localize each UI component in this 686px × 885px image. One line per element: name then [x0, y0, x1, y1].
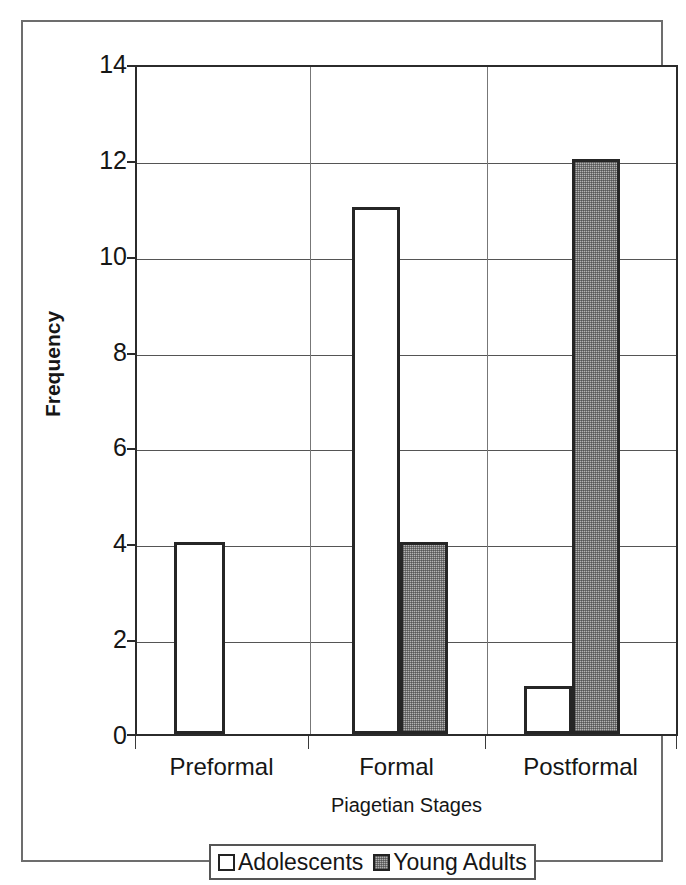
y-tick-label-6: 6: [55, 435, 127, 460]
legend-swatch-gray-icon: [373, 854, 390, 871]
bar-preformal-adolescents: [174, 542, 225, 734]
legend-label-young-adults: Young Adults: [393, 849, 526, 875]
x-tick-mark-0: [135, 736, 136, 749]
y-tick-label-2: 2: [55, 627, 127, 652]
x-axis-ticks: [135, 736, 678, 752]
x-axis-category-labels: Preformal Formal Postformal: [135, 752, 678, 786]
legend-swatch-white-icon: [218, 854, 235, 871]
plot-inner: [137, 67, 676, 734]
x-cat-label-preformal: Preformal: [135, 752, 308, 782]
category-separator-2: [487, 67, 488, 734]
plot-area: [135, 65, 678, 736]
chart-legend: Adolescents Young Adults: [209, 844, 536, 880]
x-tick-mark-1: [308, 736, 309, 749]
y-axis-ticks: 14 12 10 8 6 4 2 0: [41, 65, 127, 736]
legend-entry-young-adults: Young Adults: [373, 849, 526, 875]
x-tick-mark-3: [676, 736, 677, 749]
y-tick-label-10: 10: [55, 244, 127, 269]
figure-frame: Frequency 14 12 10 8 6 4 2 0: [21, 20, 663, 862]
bar-formal-young-adults: [400, 542, 448, 734]
category-separator-1: [310, 67, 311, 734]
y-tick-label-0: 0: [55, 723, 127, 748]
legend-label-adolescents: Adolescents: [238, 849, 363, 875]
y-tick-label-12: 12: [55, 148, 127, 173]
bar-postformal-young-adults: [572, 159, 620, 734]
y-tick-label-4: 4: [55, 531, 127, 556]
bar-postformal-adolescents: [524, 686, 572, 734]
x-cat-label-formal: Formal: [308, 752, 485, 782]
y-tick-label-14: 14: [55, 52, 127, 77]
x-tick-mark-2: [485, 736, 486, 749]
bar-chart-figure: Frequency 14 12 10 8 6 4 2 0: [0, 0, 686, 885]
x-cat-label-postformal: Postformal: [485, 752, 676, 782]
y-tick-label-8: 8: [55, 340, 127, 365]
legend-entry-adolescents: Adolescents: [218, 849, 363, 875]
bar-formal-adolescents: [352, 207, 400, 734]
x-axis-title: Piagetian Stages: [135, 794, 678, 817]
